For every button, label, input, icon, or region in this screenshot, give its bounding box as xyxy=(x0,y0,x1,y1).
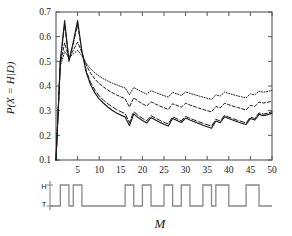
x-axis-label: M xyxy=(154,216,167,231)
sequence-low-label: T xyxy=(42,200,47,209)
y-tick-label: 0.5 xyxy=(39,57,51,67)
y-tick-label: 0.3 xyxy=(39,106,51,116)
x-tick-label: 10 xyxy=(94,165,104,175)
y-tick-label: 0.6 xyxy=(39,32,51,42)
y-axis-label: P(X = H|D) xyxy=(4,61,17,115)
y-tick-label: 0.2 xyxy=(39,131,51,141)
y-tick-group: 0.10.20.30.40.50.60.7 xyxy=(39,7,272,165)
data-curves xyxy=(56,21,272,160)
curve-dashed xyxy=(56,42,272,160)
x-tick-label: 5 xyxy=(75,165,80,175)
plot-frame xyxy=(56,12,272,160)
main-plot-axes xyxy=(56,12,272,160)
curve-solid xyxy=(56,21,272,160)
y-tick-label: 0.7 xyxy=(39,7,51,17)
curve-long-dash xyxy=(56,24,272,160)
figure-container: P(X = H|D) 0.10.20.30.40.50.60.7 5101520… xyxy=(0,0,292,236)
sequence-high-label: H xyxy=(41,182,46,191)
x-tick-label: 50 xyxy=(267,165,277,175)
x-tick-label: 45 xyxy=(246,165,256,175)
y-axis-label-text: P(X = H|D) xyxy=(4,61,17,115)
sequence-trace xyxy=(50,185,272,206)
x-tick-label: 35 xyxy=(202,165,212,175)
curve-dotted xyxy=(56,50,272,160)
y-tick-label: 0.1 xyxy=(39,155,51,165)
x-tick-label: 25 xyxy=(159,165,169,175)
x-tick-label: 30 xyxy=(181,165,191,175)
y-tick-label: 0.4 xyxy=(39,81,51,91)
sequence-panel: H T xyxy=(41,181,272,210)
x-tick-label: 15 xyxy=(116,165,126,175)
x-tick-label: 20 xyxy=(138,165,148,175)
x-tick-label: 40 xyxy=(224,165,234,175)
chart-svg: P(X = H|D) 0.10.20.30.40.50.60.7 5101520… xyxy=(0,0,292,236)
